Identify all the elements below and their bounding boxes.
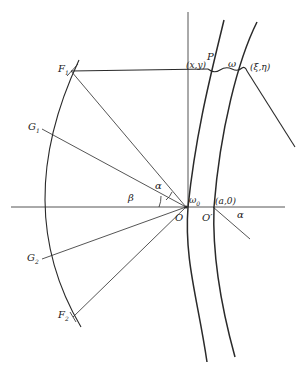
f1-subscript: 1 (65, 69, 69, 76)
label-a0: (a,0) (215, 197, 236, 206)
g1-letter: G (28, 121, 36, 132)
ray-o-f1 (71, 71, 186, 207)
ray-o-g1 (42, 129, 186, 207)
f2-subscript: 2 (65, 315, 69, 322)
boundary-curve-outer (214, 22, 257, 357)
label-f2: F2 (58, 310, 69, 322)
f1-letter: F (58, 63, 65, 74)
label-omega: ω (228, 59, 236, 69)
label-xi-eta: (ξ,η) (250, 63, 270, 72)
g2-subscript: 2 (35, 258, 39, 265)
label-o: O (175, 213, 183, 223)
label-p: P (207, 52, 214, 62)
diagram-canvas (0, 0, 302, 370)
label-omega0: ω0 (189, 196, 200, 207)
label-g1: G1 (28, 122, 40, 134)
omega0-subscript: 0 (196, 200, 200, 207)
label-alpha-right: α (237, 210, 244, 220)
origin-point (184, 205, 187, 208)
ray-o-g2 (42, 207, 186, 259)
label-f1: F1 (58, 64, 69, 76)
f2-letter: F (58, 309, 65, 320)
g2-letter: G (27, 252, 35, 263)
g1-subscript: 1 (36, 127, 40, 134)
label-g2: G2 (27, 253, 39, 265)
ray-o-f2 (73, 207, 186, 317)
label-alpha-left: α (155, 181, 162, 191)
line-o-prime (213, 207, 250, 239)
angle-arc-beta (159, 196, 161, 207)
label-o-prime: O′ (202, 213, 212, 223)
arc-f1-f2 (45, 60, 81, 327)
label-p-coords: (x,y) (186, 61, 206, 70)
line-xieta-normal (247, 71, 295, 147)
label-beta: β (128, 193, 134, 203)
